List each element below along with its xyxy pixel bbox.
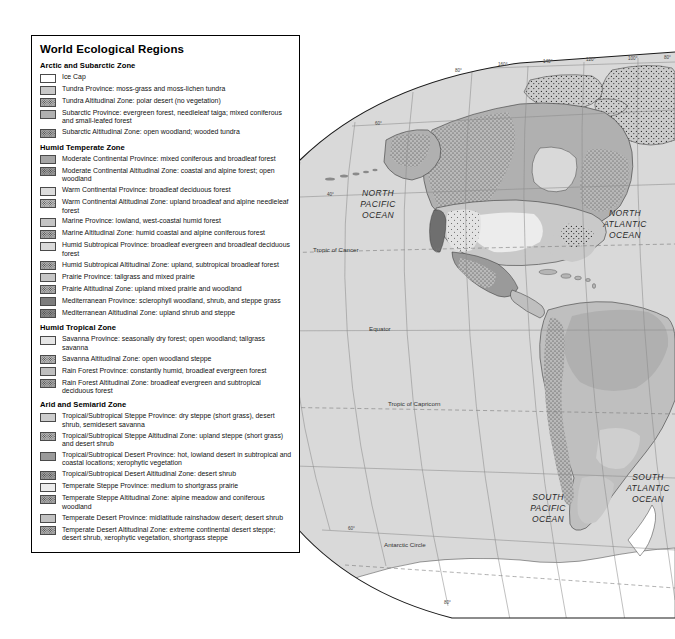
legend-row[interactable]: Humid Subtropical Altitudinal Zone: upla…	[39, 261, 292, 271]
legend-swatch	[40, 273, 56, 282]
legend-label: Tropical/Subtropical Desert Province: ho…	[62, 451, 292, 468]
legend-label: Subarctic Province: evergreen forest, ne…	[62, 109, 292, 126]
longitude-label: 100°	[628, 56, 638, 61]
legend-swatch	[40, 336, 56, 345]
ocean-label: PACIFIC	[530, 503, 566, 513]
legend-swatch	[40, 167, 56, 176]
ocean-label: ATLANTIC	[602, 219, 647, 229]
legend-group-heading: Humid Tropical Zone	[40, 323, 292, 332]
ocean-label: PACIFIC	[360, 199, 396, 209]
ocean-label: OCEAN	[609, 230, 642, 240]
legend-label: Temperate Steppe Province: medium to sho…	[62, 482, 238, 490]
legend-label: Tundra Altitudinal Zone: polar desert (n…	[62, 97, 221, 105]
legend-label: Prairie Province: tallgrass and mixed pr…	[62, 273, 195, 281]
legend-row[interactable]: Tropical/Subtropical Steppe Province: dr…	[39, 412, 292, 429]
legend-swatch	[40, 495, 56, 504]
legend-swatch	[40, 514, 56, 523]
legend-label: Humid Subtropical Altitudinal Zone: upla…	[62, 261, 279, 269]
legend-label: Subarctic Altitudinal Zone: open woodlan…	[62, 128, 240, 136]
ocean-label: OCEAN	[632, 494, 665, 504]
legend-swatch	[40, 74, 56, 83]
legend-group-heading: Humid Temperate Zone	[40, 143, 292, 152]
minor-latitude-label: 60°	[375, 121, 382, 126]
legend-label: Savanna Province: seasonally dry forest;…	[62, 335, 292, 352]
legend-label: Tropical/Subtropical Steppe Altitudinal …	[62, 432, 292, 449]
minor-latitude-label: 40°	[327, 192, 334, 197]
ocean-label: ATLANTIC	[625, 483, 670, 493]
legend-row[interactable]: Moderate Continental Province: mixed con…	[39, 155, 292, 165]
legend-row[interactable]: Temperate Steppe Altitudinal Zone: alpin…	[39, 494, 292, 511]
legend-row[interactable]: Savanna Province: seasonally dry forest;…	[39, 335, 292, 352]
legend-swatch	[40, 261, 56, 270]
legend-label: Warm Continental Altitudinal Zone: uplan…	[62, 198, 292, 215]
legend-swatch	[40, 309, 56, 318]
latitude-label: Antarctic Circle	[384, 541, 426, 548]
water-hudson-bay	[532, 147, 577, 192]
map-legend: World Ecological Regions Arctic and Suba…	[31, 35, 300, 553]
legend-swatch	[40, 355, 56, 364]
longitude-label: 160°	[498, 62, 508, 67]
legend-row[interactable]: Prairie Altitudinal Zone: upland mixed p…	[39, 285, 292, 295]
legend-swatch	[40, 367, 56, 376]
legend-row[interactable]: Tropical/Subtropical Desert Altitudinal …	[39, 470, 292, 480]
legend-label: Humid Subtropical Province: broadleaf ev…	[62, 241, 292, 258]
legend-swatch	[40, 285, 56, 294]
legend-swatch	[40, 218, 56, 227]
legend-swatch	[40, 483, 56, 492]
legend-swatch	[40, 242, 56, 251]
legend-swatch	[40, 230, 56, 239]
longitude-label: 120°	[586, 57, 596, 62]
legend-row[interactable]: Moderate Continental Altitudinal Zone: c…	[39, 167, 292, 184]
legend-row[interactable]: Temperate Steppe Province: medium to sho…	[39, 482, 292, 492]
legend-label: Mediterranean Altitudinal Zone: upland s…	[62, 309, 235, 317]
legend-swatch	[40, 432, 56, 441]
legend-row[interactable]: Humid Subtropical Province: broadleaf ev…	[39, 241, 292, 258]
legend-row[interactable]: Tundra Province: moss-grass and moss-lic…	[39, 85, 292, 95]
legend-group-heading: Arctic and Subarctic Zone	[40, 61, 292, 70]
legend-row[interactable]: Prairie Province: tallgrass and mixed pr…	[39, 273, 292, 283]
legend-row[interactable]: Tropical/Subtropical Desert Province: ho…	[39, 451, 292, 468]
legend-label: Rain Forest Province: constantly humid, …	[62, 367, 267, 375]
legend-row[interactable]: Marine Province: lowland, west-coastal h…	[39, 217, 292, 227]
ocean-label: OCEAN	[532, 514, 565, 524]
legend-label: Tundra Province: moss-grass and moss-lic…	[62, 85, 225, 93]
minor-latitude-label: 80°	[444, 600, 451, 605]
legend-swatch	[40, 199, 56, 208]
legend-row[interactable]: Warm Continental Altitudinal Zone: uplan…	[39, 198, 292, 215]
legend-row[interactable]: Ice Cap	[39, 73, 292, 83]
legend-label: Mediterranean Province: sclerophyll wood…	[62, 297, 281, 305]
legend-row[interactable]: Mediterranean Altitudinal Zone: upland s…	[39, 309, 292, 319]
legend-row[interactable]: Subarctic Altitudinal Zone: open woodlan…	[39, 128, 292, 138]
legend-row[interactable]: Savanna Altitudinal Zone: open woodland …	[39, 355, 292, 365]
legend-swatch	[40, 526, 56, 535]
legend-swatch	[40, 86, 56, 95]
legend-label: Savanna Altitudinal Zone: open woodland …	[62, 355, 211, 363]
legend-row[interactable]: Rain Forest Province: constantly humid, …	[39, 367, 292, 377]
ocean-label: SOUTH	[632, 472, 664, 482]
legend-swatch	[40, 129, 56, 138]
legend-swatch	[40, 155, 56, 164]
longitude-label: 80°	[664, 55, 671, 60]
legend-row[interactable]: Tropical/Subtropical Steppe Altitudinal …	[39, 432, 292, 449]
minor-latitude-label: 80°	[455, 68, 462, 73]
legend-label: Moderate Continental Altitudinal Zone: c…	[62, 167, 292, 184]
legend-label: Temperate Desert Altitudinal Zone: extre…	[62, 526, 292, 543]
legend-label: Prairie Altitudinal Zone: upland mixed p…	[62, 285, 242, 293]
longitude-label: 140°	[543, 59, 553, 64]
legend-label: Marine Altitudinal Zone: humid coastal a…	[62, 229, 265, 237]
legend-row[interactable]: Marine Altitudinal Zone: humid coastal a…	[39, 229, 292, 239]
legend-row[interactable]: Rain Forest Altitudinal Zone: broadleaf …	[39, 379, 292, 396]
legend-row[interactable]: Mediterranean Province: sclerophyll wood…	[39, 297, 292, 307]
legend-row[interactable]: Temperate Desert Province: midlatitude r…	[39, 514, 292, 524]
legend-swatch	[40, 297, 56, 306]
legend-row[interactable]: Subarctic Province: evergreen forest, ne…	[39, 109, 292, 126]
legend-swatch	[40, 413, 56, 422]
legend-label: Marine Province: lowland, west-coastal h…	[62, 217, 221, 225]
minor-latitude-label: 60°	[348, 526, 355, 531]
legend-row[interactable]: Temperate Desert Altitudinal Zone: extre…	[39, 526, 292, 543]
legend-swatch	[40, 379, 56, 388]
legend-row[interactable]: Tundra Altitudinal Zone: polar desert (n…	[39, 97, 292, 107]
legend-label: Tropical/Subtropical Steppe Province: dr…	[62, 412, 292, 429]
legend-label: Warm Continental Province: broadleaf dec…	[62, 186, 231, 194]
legend-row[interactable]: Warm Continental Province: broadleaf dec…	[39, 186, 292, 196]
